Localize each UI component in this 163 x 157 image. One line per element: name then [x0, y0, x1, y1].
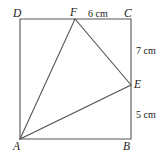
dimension-label-eb: 5 cm [136, 110, 156, 120]
vertex-label-a: A [13, 141, 20, 153]
vertex-label-b: B [123, 141, 130, 153]
vertex-label-c: C [124, 8, 132, 20]
vertex-label-e: E [134, 79, 141, 91]
triangle-afe-outline [20, 19, 131, 139]
dimension-label-fc: 6 cm [88, 9, 108, 19]
square-outline [20, 19, 131, 139]
geometry-figure: D C A B F E 6 cm 7 cm 5 cm [0, 0, 163, 157]
vertex-label-d: D [13, 8, 21, 20]
dimension-label-ce: 7 cm [136, 46, 156, 56]
vertex-label-f: F [70, 7, 77, 19]
